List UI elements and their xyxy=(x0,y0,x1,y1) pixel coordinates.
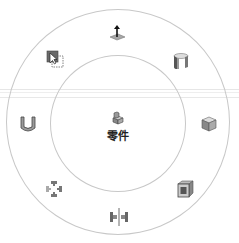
radial-item-extrude[interactable] xyxy=(106,22,128,44)
shell-icon xyxy=(175,179,195,199)
radial-item-pattern[interactable] xyxy=(43,178,65,200)
pattern-icon xyxy=(44,179,64,199)
revolve-icon xyxy=(170,51,190,71)
radial-center-part[interactable]: 零件 xyxy=(98,110,138,143)
radial-item-shell[interactable] xyxy=(174,178,196,200)
box-view-icon xyxy=(199,114,219,134)
select-icon xyxy=(45,49,65,69)
extrude-icon xyxy=(107,23,127,43)
sheet-metal-icon xyxy=(18,114,38,134)
radial-item-view-cube[interactable] xyxy=(198,113,220,135)
mirror-icon xyxy=(109,207,129,227)
radial-item-mirror[interactable] xyxy=(108,206,130,228)
radial-item-select[interactable] xyxy=(44,48,66,70)
radial-item-sheet-metal[interactable] xyxy=(17,113,39,135)
center-label: 零件 xyxy=(107,127,129,143)
radial-item-revolve[interactable] xyxy=(169,50,191,72)
part-icon xyxy=(110,110,126,126)
